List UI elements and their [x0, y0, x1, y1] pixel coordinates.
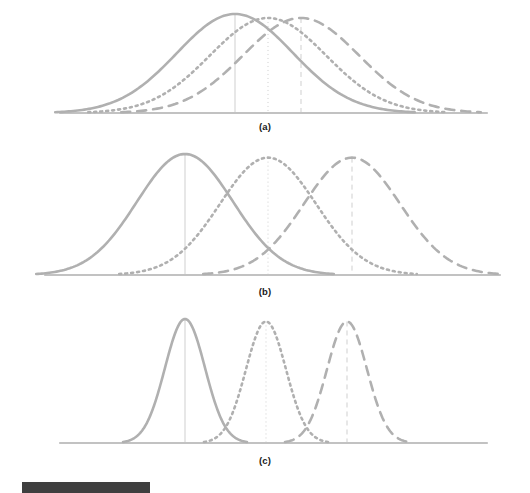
panel-a-label: (a) [0, 121, 530, 132]
curve-distribution-2-dotted [119, 158, 417, 274]
figure-normal-distribution-overlap: (a) (b) (c) [0, 0, 530, 493]
panel-a [0, 0, 530, 140]
panel-c-plot [0, 305, 530, 475]
panel-b [0, 140, 530, 305]
panel-b-label: (b) [0, 286, 530, 297]
panel-b-plot [0, 140, 530, 305]
panel-c [0, 305, 530, 475]
panel-c-label: (c) [0, 455, 530, 466]
panel-a-plot [0, 0, 530, 140]
caption-redaction-bar [22, 482, 150, 493]
